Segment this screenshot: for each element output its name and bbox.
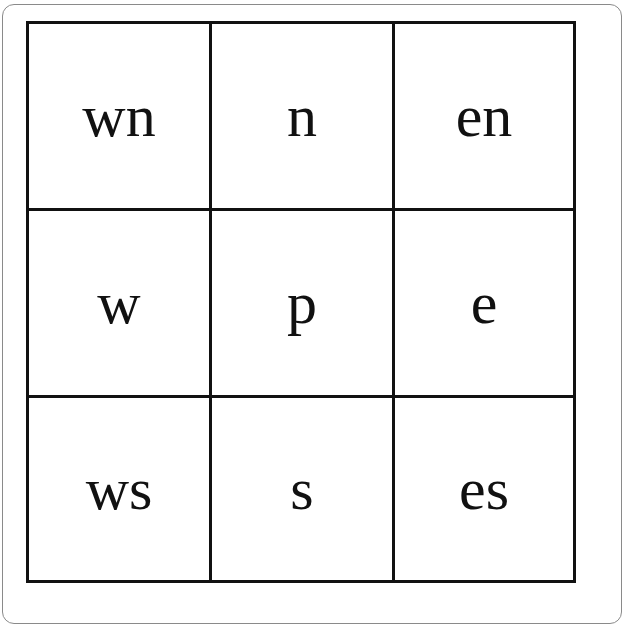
- cell-w: w: [29, 211, 212, 398]
- cell-wn: wn: [29, 24, 212, 211]
- cell-e: e: [395, 211, 573, 398]
- cell-n: n: [212, 24, 395, 211]
- cell-es: es: [395, 398, 573, 580]
- cell-s: s: [212, 398, 395, 580]
- cell-en: en: [395, 24, 573, 211]
- cell-p: p: [212, 211, 395, 398]
- neighborhood-grid: wn n en w p e ws s es: [26, 21, 576, 583]
- cell-ws: ws: [29, 398, 212, 580]
